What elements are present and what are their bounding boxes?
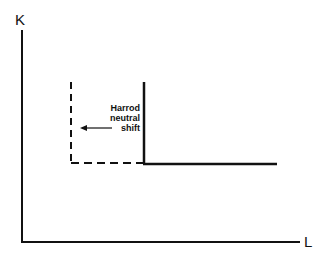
annotation-line-3: shift	[92, 123, 140, 133]
isoquant-diagram: K L Harrod neutral shift	[0, 0, 328, 256]
diagram-lines	[0, 0, 328, 256]
annotation-line-2: neutral	[92, 113, 140, 123]
y-axis-label: K	[15, 11, 25, 28]
harrod-neutral-shift-annotation: Harrod neutral shift	[92, 103, 140, 133]
annotation-line-1: Harrod	[92, 103, 140, 113]
x-axis-label: L	[304, 233, 312, 250]
shift-arrow-head	[80, 125, 87, 131]
